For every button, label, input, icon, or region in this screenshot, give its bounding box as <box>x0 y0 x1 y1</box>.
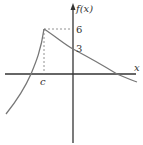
function-graph: f(x) x 6 3 c <box>0 0 143 145</box>
tick-label-6: 6 <box>76 24 82 35</box>
curve-left-branch <box>6 29 44 114</box>
y-axis-arrow-icon <box>71 3 76 10</box>
tick-label-3: 3 <box>76 43 82 54</box>
tick-label-c: c <box>40 76 46 87</box>
x-axis-label: x <box>134 62 140 73</box>
y-axis-label: f(x) <box>75 3 93 14</box>
